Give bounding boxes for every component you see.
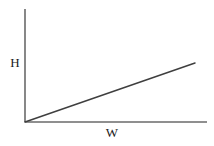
data-line-h-vs-w: [25, 63, 195, 122]
y-axis-label: H: [8, 56, 22, 69]
figure-root: H W: [0, 0, 214, 146]
x-axis-label: W: [99, 126, 125, 139]
